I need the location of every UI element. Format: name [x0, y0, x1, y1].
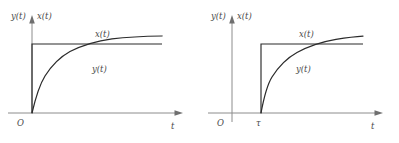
tau-tick-label: τ — [256, 118, 261, 128]
y-axis-arrow-icon — [229, 15, 235, 24]
t-axis-label: t — [371, 121, 375, 131]
origin-label: O — [217, 118, 224, 128]
left-panel: y(t) x(t) t O x(t) y(t) — [0, 0, 199, 143]
response-curve-label: y(t) — [91, 64, 107, 74]
y-axis-label: y(t) — [210, 11, 226, 21]
y-axis-label: y(t) — [10, 11, 26, 21]
figure-root: y(t) x(t) t O x(t) y(t) y(t) x(t) t O — [0, 0, 399, 143]
step-input-curve — [32, 44, 162, 113]
step-input-curve — [261, 44, 363, 113]
t-axis-arrow-icon — [175, 110, 184, 116]
response-curve-label: y(t) — [295, 64, 311, 74]
step-curve-label: x(t) — [299, 29, 314, 39]
response-curve — [261, 36, 363, 113]
x-axis-signal-label: x(t) — [237, 11, 252, 21]
step-curve-label: x(t) — [95, 29, 110, 39]
t-axis-arrow-icon — [375, 110, 384, 116]
right-panel: y(t) x(t) t O τ x(t) y(t) — [199, 0, 398, 143]
response-curve — [32, 36, 162, 113]
t-axis-label: t — [171, 121, 175, 131]
x-axis-signal-label: x(t) — [37, 11, 52, 21]
origin-label: O — [17, 118, 24, 128]
y-axis-arrow-icon — [29, 15, 35, 24]
